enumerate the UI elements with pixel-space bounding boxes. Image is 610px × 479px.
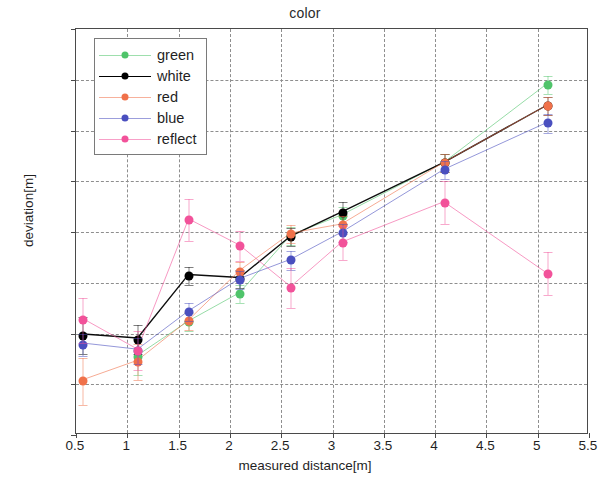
legend-label: red — [151, 89, 178, 105]
error-bar-cap — [543, 133, 552, 134]
error-bar-cap — [184, 267, 193, 268]
y-tickmark — [71, 232, 76, 233]
data-point-reflect — [338, 239, 347, 248]
y-axis-title: deviation[m] — [21, 131, 36, 291]
data-point-blue — [441, 166, 450, 175]
data-point-reflect — [184, 215, 193, 224]
error-bar-cap — [184, 241, 193, 242]
error-bar-cap — [184, 285, 193, 286]
legend-label: white — [151, 68, 191, 84]
data-point-white — [184, 271, 193, 280]
y-tickmark — [71, 283, 76, 284]
error-bar-cap — [133, 380, 142, 381]
data-point-reflect — [441, 198, 450, 207]
data-point-reflect — [236, 242, 245, 251]
error-bar-cap — [184, 331, 193, 332]
data-point-red — [543, 102, 552, 111]
error-bar-cap — [133, 325, 142, 326]
error-bar-cap — [133, 370, 142, 371]
legend-item-green: green — [99, 44, 197, 65]
error-bar-cap — [236, 262, 245, 263]
y-tickmark — [71, 334, 76, 335]
error-bar-cap — [79, 298, 88, 299]
error-bar-cap — [287, 268, 296, 269]
legend-swatch-red — [99, 90, 151, 104]
data-point-red — [79, 377, 88, 386]
error-bar-cap — [184, 330, 193, 331]
x-tick-label: 1 — [123, 438, 131, 453]
legend-swatch-green — [99, 48, 151, 62]
chart-figure: color greenwhiteredbluereflect -0.01-0.0… — [0, 0, 610, 479]
error-bar-cap — [543, 252, 552, 253]
data-point-blue — [543, 119, 552, 128]
x-tick-label: 4.5 — [476, 438, 495, 453]
error-bar-cap — [184, 321, 193, 322]
error-bar-cap — [338, 202, 347, 203]
data-point-blue — [236, 275, 245, 284]
x-tick-label: 3.5 — [373, 438, 392, 453]
x-tick-label: 2 — [225, 438, 233, 453]
error-bar-cap — [184, 303, 193, 304]
legend-label: blue — [151, 110, 184, 126]
x-tick-label: 5 — [533, 438, 541, 453]
legend-swatch-blue — [99, 111, 151, 125]
error-bar-cap — [441, 179, 450, 180]
error-bar-cap — [236, 271, 245, 272]
x-tick-label: 5.5 — [579, 438, 598, 453]
error-bar-cap — [236, 303, 245, 304]
y-tickmark — [71, 181, 76, 182]
error-bar-cap — [543, 114, 552, 115]
error-bar-cap — [543, 76, 552, 77]
y-tickmark — [71, 435, 76, 436]
x-tick-label: 2.5 — [271, 438, 290, 453]
data-point-reflect — [287, 283, 296, 292]
error-bar-cap — [184, 199, 193, 200]
data-point-red — [287, 230, 296, 239]
y-tickmark — [71, 80, 76, 81]
error-bar-cap — [133, 331, 142, 332]
y-tickmark — [71, 131, 76, 132]
legend-label: reflect — [151, 131, 197, 147]
error-bar-cap — [338, 226, 347, 227]
error-bar-cap — [287, 308, 296, 309]
error-bar-cap — [287, 225, 296, 226]
data-point-blue — [287, 256, 296, 265]
error-bar-cap — [543, 295, 552, 296]
plot-area: greenwhiteredbluereflect — [75, 28, 588, 434]
legend-item-red: red — [99, 86, 197, 107]
legend-item-blue: blue — [99, 107, 197, 128]
data-point-reflect — [133, 346, 142, 355]
data-point-green — [236, 289, 245, 298]
error-bar-cap — [543, 97, 552, 98]
legend-label: green — [151, 47, 194, 63]
error-bar-cap — [287, 251, 296, 252]
error-bar-cap — [236, 261, 245, 262]
error-bar-cap — [287, 243, 296, 244]
chart-title: color — [0, 5, 610, 21]
error-bar-cap — [543, 94, 552, 95]
error-bar-cap — [441, 224, 450, 225]
error-bar-cap — [338, 224, 347, 225]
legend-item-reflect: reflect — [99, 128, 197, 149]
error-bar-cap — [441, 181, 450, 182]
error-bar-cap — [79, 358, 88, 359]
error-bar-cap — [79, 356, 88, 357]
y-tickmark — [71, 29, 76, 30]
error-bar-cap — [79, 405, 88, 406]
error-bar-cap — [236, 231, 245, 232]
legend-swatch-reflect — [99, 132, 151, 146]
data-point-reflect — [543, 269, 552, 278]
data-point-green — [543, 80, 552, 89]
legend-swatch-white — [99, 69, 151, 83]
error-bar-cap — [338, 260, 347, 261]
error-bar-cap — [441, 161, 450, 162]
x-tick-label: 0.5 — [66, 438, 85, 453]
data-point-reflect — [79, 316, 88, 325]
x-tick-label: 1.5 — [168, 438, 187, 453]
x-tick-label: 4 — [430, 438, 438, 453]
error-bar-cap — [441, 154, 450, 155]
x-tick-label: 3 — [328, 438, 336, 453]
error-bar-cap — [287, 246, 296, 247]
error-bar-cap — [236, 289, 245, 290]
legend-item-white: white — [99, 65, 197, 86]
